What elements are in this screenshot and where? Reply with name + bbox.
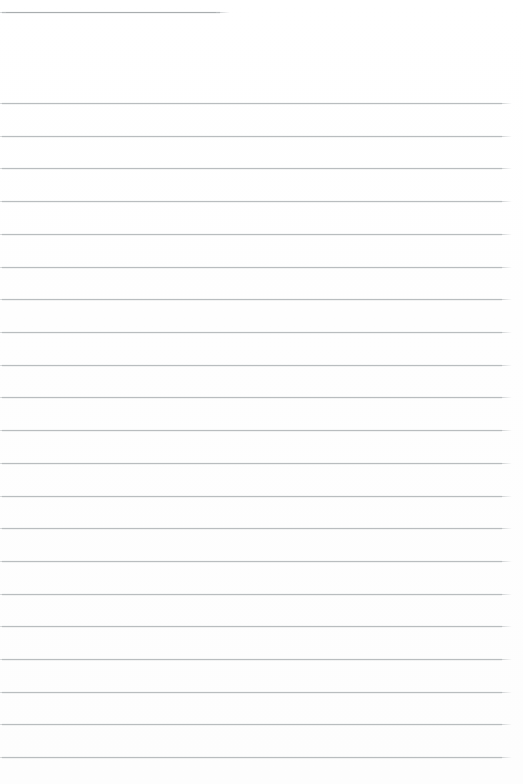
ruled-line-2: [2, 136, 502, 137]
ruled-line-11: [2, 430, 502, 431]
ruled-line-21: [2, 757, 502, 758]
paper-page: [0, 0, 523, 784]
ruled-line-1: [2, 103, 502, 104]
ruled-line-17: [2, 626, 502, 627]
ruled-line-12: [2, 463, 502, 464]
ruled-line-20: [2, 724, 502, 725]
writing-area[interactable]: [0, 0, 523, 784]
ruled-line-4: [2, 201, 502, 202]
ruled-line-14: [2, 528, 502, 529]
ruled-line-16: [2, 594, 502, 595]
ruled-line-18: [2, 659, 502, 660]
ruled-line-9: [2, 365, 502, 366]
ruled-line-7: [2, 299, 502, 300]
ruled-line-19: [2, 692, 502, 693]
ruled-line-15: [2, 561, 502, 562]
ruled-line-13: [2, 496, 502, 497]
ruled-line-8: [2, 332, 502, 333]
ruled-line-6: [2, 267, 502, 268]
ruled-line-3: [2, 168, 502, 169]
ruled-line-5: [2, 234, 502, 235]
ruled-line-10: [2, 397, 502, 398]
